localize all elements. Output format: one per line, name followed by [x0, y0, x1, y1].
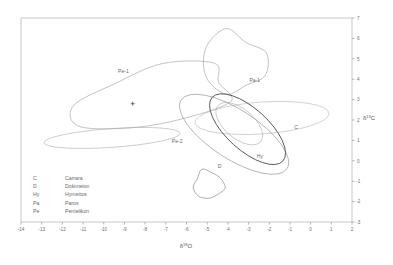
ellipse-label-pe-1: Pe-1 — [118, 68, 129, 74]
y-tick-label: 4 — [357, 77, 360, 82]
y-tick-label: 1 — [357, 138, 360, 143]
x-tick-label: -7 — [164, 227, 169, 232]
x-tick-label: -1 — [288, 227, 293, 232]
chart-background — [0, 0, 393, 265]
legend-key: C — [33, 175, 37, 181]
x-tick-label: -14 — [18, 227, 25, 232]
legend-label: Hymettos — [65, 191, 87, 197]
legend-label: Dokimeion — [65, 183, 90, 189]
legend-label: Paros — [65, 200, 79, 206]
ellipse-label-pa-1: Pa-1 — [249, 77, 260, 83]
x-tick-label: -9 — [122, 227, 127, 232]
chart-container: -14-13-12-11-10-9-8-7-6-5-4-3-2-1012 765… — [0, 0, 393, 265]
legend-key: Hy — [33, 191, 40, 197]
legend-key: D — [33, 183, 37, 189]
y-tick-label: 3 — [357, 97, 360, 102]
legend-label: Carrara — [65, 175, 83, 181]
y-tick-label: 0 — [357, 159, 360, 164]
x-tick-label: -3 — [247, 227, 252, 232]
x-tick-label: 0 — [309, 227, 312, 232]
scatter-plot-svg: -14-13-12-11-10-9-8-7-6-5-4-3-2-1012 765… — [0, 0, 393, 265]
ellipse-label-d: D — [218, 163, 222, 169]
x-tick-label: -8 — [143, 227, 148, 232]
ellipse-label-pe-2: Pe-2 — [172, 138, 183, 144]
x-tick-label: -2 — [267, 227, 272, 232]
x-tick-label: -11 — [80, 227, 87, 232]
x-tick-label: -5 — [205, 227, 210, 232]
ellipse-label-c: C — [294, 124, 298, 130]
y-tick-label: 7 — [357, 16, 360, 21]
y-tick-label: -3 — [356, 220, 361, 225]
legend-key: Pa — [33, 200, 39, 206]
x-tick-label: -13 — [38, 227, 45, 232]
y-tick-label: -2 — [356, 199, 361, 204]
y-tick-label: 6 — [357, 36, 360, 41]
y-tick-label: -1 — [356, 179, 361, 184]
legend-key: Pe — [33, 208, 39, 214]
x-tick-label: -6 — [184, 227, 189, 232]
x-tick-label: 2 — [351, 227, 354, 232]
x-tick-label: -12 — [59, 227, 66, 232]
ellipse-label-hy: Hy — [257, 153, 264, 159]
x-tick-label: -10 — [100, 227, 107, 232]
legend-label: Pentelikon — [65, 208, 89, 214]
x-tick-label: 1 — [330, 227, 333, 232]
x-tick-label: -4 — [226, 227, 231, 232]
y-tick-label: 5 — [357, 57, 360, 62]
y-tick-label: 2 — [357, 118, 360, 123]
